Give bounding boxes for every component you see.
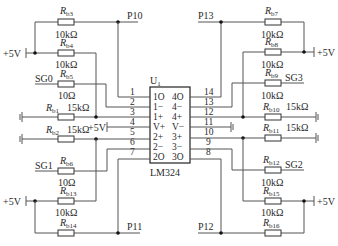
pin-name: 2O [153,152,165,162]
resistor-rb15 [265,198,281,204]
power-label-vcc: +5V [317,47,336,58]
pin-number: 12 [204,107,214,117]
resistor-value: 10kΩ [55,29,77,40]
junction-dot [219,231,223,235]
resistor-rb10 [265,114,281,120]
pin-name: 2+ [153,132,163,142]
net-label-p13: P13 [198,10,214,21]
resistor-value: 10kΩ [261,90,283,101]
resistor-value: 10Ω [58,90,75,101]
resistor-rb6 [58,168,74,174]
net-label-p12: P12 [198,221,214,232]
resistor-label: Rb2 [45,124,60,137]
pin-name: 4− [172,102,182,112]
resistor-rb12 [265,167,281,173]
power-label-vcc: +5V [3,196,22,207]
resistor-rb1 [58,114,74,120]
resistor-rb5 [58,81,74,87]
pin-name: 2− [153,142,163,152]
ic-ref-label: U1 [150,75,161,88]
resistor-value: 15kΩ [67,124,89,135]
junction-dot [241,115,245,119]
pin-number: 2 [130,97,135,107]
power-label-vcc: +5V [88,122,107,133]
power-label-vcc: +5V [317,196,336,207]
resistor-label: Rb10 [262,101,280,114]
pin-name: 3− [172,142,182,152]
resistor-rb14 [58,230,74,236]
pin-name: 3O [172,152,184,162]
net-label-p11: P11 [127,221,142,232]
lm324-circuit-diagram: U1 LM324 1O 1− 1+ V+ 2+ 2− 2O 4O 4− 4+ V… [0,0,338,246]
pin-name: 4+ [172,112,182,122]
resistor-rb8 [265,49,281,55]
junction-dot [302,199,306,203]
resistor-value: 10kΩ [55,59,77,70]
junction-dot [116,231,120,235]
pin-name: 1O [153,92,165,102]
pin-name: 1− [153,102,163,112]
pin-name: V− [172,122,184,132]
resistor-label: Rb1 [45,102,60,115]
resistor-rb2 [58,136,74,142]
net-label-p10: P10 [127,10,143,21]
pin-name: 1+ [153,112,163,122]
net-label-sg0: SG0 [35,73,53,84]
resistor-value: 10kΩ [55,207,77,218]
pin-name: 4O [172,92,184,102]
net-label-sg2: SG2 [285,159,303,170]
resistor-value: 15kΩ [67,102,89,113]
junction-dot [219,20,223,24]
net-label-sg3: SG3 [285,72,303,83]
resistor-rb7 [265,19,281,25]
pin-number: 1 [130,87,135,97]
pin-name: V+ [153,122,165,132]
pin-number: 14 [204,87,214,97]
junction-dot [94,115,98,119]
resistor-label: Rb3 [59,5,74,18]
pin-number: 4 [130,117,135,127]
resistor-rb4 [58,50,74,56]
resistor-value: 15kΩ [286,122,308,133]
pin-number: 3 [130,107,135,117]
resistor-rb3 [58,19,74,25]
resistor-rb13 [58,198,74,204]
junction-dot [302,50,306,54]
resistor-rb16 [265,230,281,236]
pin-name: 3+ [172,132,182,142]
pin-number: 10 [204,127,214,137]
power-label-vcc: +5V [3,48,22,59]
resistor-label: Rb6 [59,155,74,168]
resistor-label: Rb11 [262,122,280,135]
net-label-sg1: SG1 [35,160,53,171]
junction-dot [33,51,37,55]
resistor-rb9 [265,80,281,86]
pin-number: 11 [204,117,213,127]
resistor-value: 15kΩ [286,101,308,112]
pin-number: 13 [204,97,214,107]
resistor-label: Rb14 [59,217,77,230]
resistor-rb11 [265,135,281,141]
resistor-label: Rb7 [264,5,279,18]
ic-part-label: LM324 [150,167,180,178]
pin-number: 5 [130,127,135,137]
resistor-label: Rb16 [262,217,280,230]
resistor-label: Rb12 [262,154,280,167]
